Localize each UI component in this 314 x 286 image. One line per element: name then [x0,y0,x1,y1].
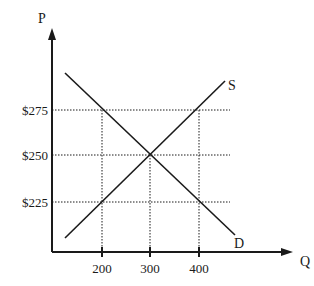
y-tick-label-275: $275 [22,103,48,118]
demand-label: D [234,236,244,251]
y-tick-label-250: $250 [22,148,48,163]
axes [52,38,283,252]
supply-label: S [228,78,236,93]
x-tick-label-200: 200 [92,261,112,276]
x-tick-label-400: 400 [189,261,209,276]
y-axis-label: P [38,11,46,26]
y-axis-arrow-icon [48,28,56,40]
x-axis-arrow-icon [281,248,293,256]
supply-demand-chart: P Q $275 $250 $225 200 300 400 S D [0,0,314,286]
x-axis-label: Q [300,254,310,269]
guide-lines [52,110,230,252]
supply-curve [65,81,225,238]
y-tick-label-225: $225 [22,195,48,210]
x-tick-label-300: 300 [140,261,160,276]
